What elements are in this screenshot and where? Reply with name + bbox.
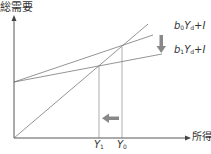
tick-y1: Y1	[94, 140, 104, 150]
ad-line-b1-label: b1Yd+I	[174, 45, 205, 55]
x-axis-label: 所得	[192, 132, 211, 142]
forty-five-degree-line	[14, 24, 148, 138]
shift-down-arrow-icon	[157, 35, 167, 53]
ad-line-b0	[14, 35, 153, 82]
ad-line-b1	[14, 54, 162, 82]
x-axis-arrowhead-icon	[185, 136, 191, 141]
shift-left-arrow-icon	[102, 114, 119, 124]
tick-y0: Y0	[117, 140, 127, 150]
y-axis-arrowhead-icon	[12, 15, 17, 21]
ad-line-b0-label: b0Yd+I	[174, 21, 205, 31]
y-axis-label: 総需要	[0, 2, 33, 13]
